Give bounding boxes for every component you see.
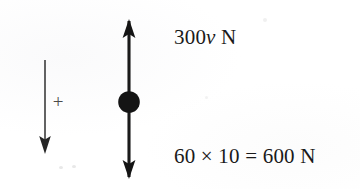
upward-force-label: 300v N: [174, 25, 236, 50]
double-headed-force-arrow: [112, 14, 146, 184]
scan-speckle: [263, 18, 267, 22]
positive-sign-label: +: [49, 92, 67, 112]
scan-speckle: [205, 96, 208, 99]
scan-speckle: [59, 166, 63, 169]
scan-speckle: [72, 165, 76, 168]
velocity-variable: v: [206, 25, 216, 49]
weight-force-label: 60 × 10 = 600 N: [174, 144, 316, 169]
force-diagram-canvas: + 300v N 60 × 10 = 600 N: [0, 0, 360, 189]
upward-force-coefficient: 300: [174, 25, 206, 49]
upward-force-unit: N: [216, 25, 237, 49]
